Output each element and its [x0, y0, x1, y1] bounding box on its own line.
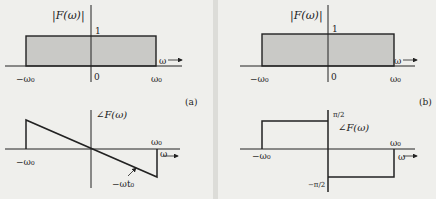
right-label-a-phase: ω₀: [151, 137, 162, 147]
ylabel-a-mag: |F(ω)|: [52, 9, 85, 23]
x-axis-label-b: ω: [394, 56, 401, 66]
panel-a-magnitude-plot: |F(ω)| 1 0 ω −ω₀ ω₀ (a): [5, 5, 197, 107]
level-label-b: 1: [332, 24, 338, 34]
panel-tag-a: (a): [185, 97, 197, 107]
ylabel-b-mag: |F(ω)|: [290, 9, 323, 23]
top-label-b: π/2: [333, 111, 344, 119]
left-label-b: −ω₀: [250, 74, 269, 84]
left-label-b-phase: −ω₀: [252, 151, 271, 161]
phase-upper-b: [262, 121, 328, 149]
bottom-label-b: −π/2: [308, 181, 325, 189]
phase-lower-b: [328, 149, 394, 177]
panel-b-magnitude-plot: |F(ω)| 1 0 ω −ω₀ ω₀ (b): [240, 5, 432, 107]
ylabel-b-phase: ∠F(ω): [338, 122, 369, 133]
right-label-b-phase: ω₀: [390, 138, 401, 148]
panel-tag-b: (b): [419, 97, 432, 107]
x-axis-label-a: ω: [159, 56, 166, 66]
origin-label-b: 0: [331, 72, 337, 82]
left-label-a: −ω₀: [16, 74, 35, 84]
right-label-a: ω₀: [151, 74, 162, 84]
pointer-arrow-icon: [128, 168, 136, 176]
origin-label-a: 0: [94, 72, 100, 82]
x-axis-label-b-phase: ω: [398, 152, 405, 162]
figure: |F(ω)| 1 0 ω −ω₀ ω₀ (a) ∠F(ω) −ω₀ ω₀ ω −…: [0, 0, 436, 199]
level-label-a: 1: [95, 26, 101, 36]
right-label-b: ω₀: [390, 74, 401, 84]
panel-a-phase-plot: ∠F(ω) −ω₀ ω₀ ω −ωt₀: [5, 109, 180, 189]
x-axis-label-a-phase: ω: [160, 149, 167, 159]
slope-label-a: −ωt₀: [112, 179, 134, 189]
ylabel-a-phase: ∠F(ω): [96, 109, 127, 120]
left-label-a-phase: −ω₀: [16, 157, 35, 167]
panel-b-phase-plot: π/2 ∠F(ω) −π/2 −ω₀ ω₀ ω: [240, 110, 417, 192]
